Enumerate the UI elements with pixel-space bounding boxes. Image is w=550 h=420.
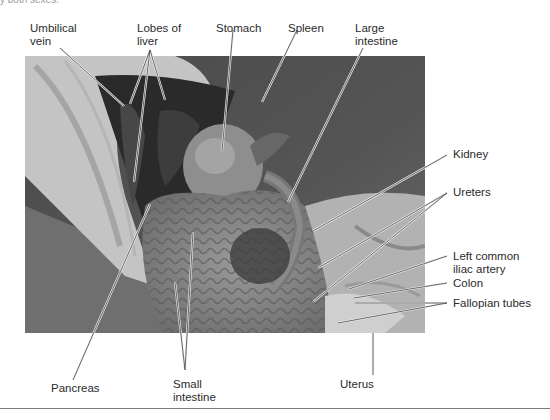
- label-colon: Colon: [453, 277, 483, 290]
- label-line: vein: [30, 35, 77, 48]
- label-line: Kidney: [453, 148, 488, 161]
- bottom-rule: [0, 408, 550, 409]
- label-line: Large: [355, 22, 398, 35]
- label-fallopian-tubes: Fallopian tubes: [453, 297, 531, 310]
- label-line: intestine: [355, 35, 398, 48]
- label-line: Uterus: [340, 378, 374, 391]
- label-large-intestine: Large intestine: [355, 22, 398, 48]
- label-line: Stomach: [216, 22, 261, 35]
- label-line: Spleen: [288, 22, 324, 35]
- label-stomach: Stomach: [216, 22, 261, 35]
- label-line: Fallopian tubes: [453, 297, 531, 310]
- label-line: liver: [137, 35, 181, 48]
- label-line: intestine: [173, 391, 216, 404]
- label-kidney: Kidney: [453, 148, 488, 161]
- label-umbilical-vein: Umbilical vein: [30, 22, 77, 48]
- caption-remnant: y both sexes.: [0, 0, 59, 5]
- label-line: Pancreas: [51, 382, 100, 395]
- label-line: Left common: [453, 250, 519, 263]
- label-line: Umbilical: [30, 22, 77, 35]
- dissection-photo: [25, 56, 425, 333]
- label-line: Small: [173, 378, 216, 391]
- label-pancreas: Pancreas: [51, 382, 100, 395]
- label-left-common-iliac-artery: Left common iliac artery: [453, 250, 519, 276]
- label-small-intestine: Small intestine: [173, 378, 216, 404]
- label-lobes-of-liver: Lobes of liver: [137, 22, 181, 48]
- label-line: Ureters: [453, 186, 491, 199]
- label-line: Colon: [453, 277, 483, 290]
- label-spleen: Spleen: [288, 22, 324, 35]
- label-line: iliac artery: [453, 263, 519, 276]
- label-ureters: Ureters: [453, 186, 491, 199]
- label-line: Lobes of: [137, 22, 181, 35]
- label-uterus: Uterus: [340, 378, 374, 391]
